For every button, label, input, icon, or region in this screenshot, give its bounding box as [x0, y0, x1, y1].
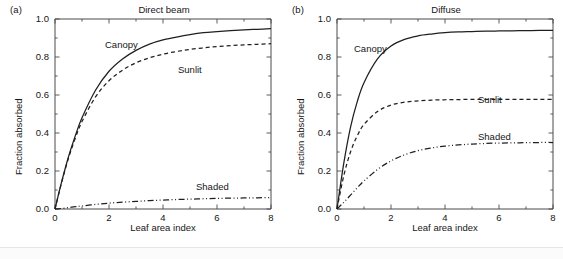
series-annotation-canopy: Canopy — [354, 43, 387, 54]
y-tick-label: 0.2 — [318, 165, 331, 176]
x-tick-label: 0 — [52, 212, 57, 223]
series-curve-sunlit — [55, 44, 271, 209]
x-tick-label: 2 — [106, 212, 111, 223]
y-tick-label: 0.0 — [318, 203, 331, 214]
y-tick-label: 0.6 — [318, 89, 331, 100]
series-annotation-sunlit: Sunlit — [478, 94, 502, 105]
panel-b-plot: 0.00.20.40.60.81.002468CanopySunlitShade… — [282, 0, 563, 240]
x-tick-label: 4 — [160, 212, 165, 223]
x-tick-label: 0 — [334, 212, 339, 223]
x-tick-label: 6 — [214, 212, 219, 223]
y-tick-label: 0.6 — [36, 89, 49, 100]
series-curve-shaded — [337, 142, 553, 209]
y-tick-label: 0.8 — [36, 51, 49, 62]
series-annotation-shaded: Shaded — [478, 131, 511, 142]
y-tick-label: 0.2 — [36, 165, 49, 176]
series-curve-sunlit — [337, 99, 553, 209]
series-annotation-sunlit: Sunlit — [178, 64, 202, 75]
x-tick-label: 6 — [496, 212, 501, 223]
series-curve-canopy — [55, 29, 271, 209]
x-tick-label: 8 — [550, 212, 555, 223]
y-tick-label: 0.4 — [36, 127, 49, 138]
panel-a-plot: 0.00.20.40.60.81.002468CanopySunlitShade… — [0, 0, 281, 240]
y-tick-label: 0.4 — [318, 127, 331, 138]
figure-canvas: (a) Direct beam Fraction absorbed Leaf a… — [0, 0, 563, 259]
x-tick-label: 8 — [268, 212, 273, 223]
chart-panel-b: (b) Diffuse Fraction absorbed Leaf area … — [282, 0, 563, 240]
series-annotation-shaded: Shaded — [196, 181, 229, 192]
axis-frame — [55, 19, 271, 209]
x-tick-label: 4 — [442, 212, 447, 223]
y-tick-label: 1.0 — [318, 13, 331, 24]
x-tick-label: 2 — [388, 212, 393, 223]
figure-caption-bar — [0, 247, 563, 259]
y-tick-label: 0.0 — [36, 203, 49, 214]
series-annotation-canopy: Canopy — [105, 39, 138, 50]
y-tick-label: 0.8 — [318, 51, 331, 62]
y-tick-label: 1.0 — [36, 13, 49, 24]
series-curve-canopy — [337, 30, 553, 209]
chart-panel-a: (a) Direct beam Fraction absorbed Leaf a… — [0, 0, 281, 240]
